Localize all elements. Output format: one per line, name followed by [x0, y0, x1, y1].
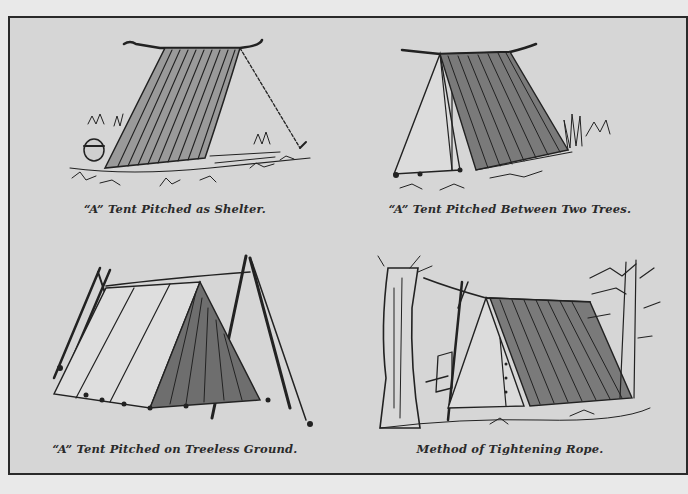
tent-treeless-ground-illustration	[10, 248, 340, 448]
tightening-rope-illustration	[340, 248, 680, 448]
caption-treeless: “A” Tent Pitched on Treeless Ground.	[10, 442, 340, 456]
panel-two-trees: “A” Tent Pitched Between Two Trees.	[340, 18, 680, 248]
tent-between-trees-illustration	[340, 18, 680, 218]
illustration-plate: “A” Tent Pitched as Shelter.	[8, 16, 688, 475]
caption-shelter: “A” Tent Pitched as Shelter.	[10, 202, 340, 216]
caption-tightening: Method of Tightening Rope.	[340, 442, 680, 456]
panel-shelter: “A” Tent Pitched as Shelter.	[10, 18, 340, 248]
tent-shelter-illustration	[10, 18, 340, 218]
panel-tightening: Method of Tightening Rope.	[340, 248, 680, 477]
panel-treeless: “A” Tent Pitched on Treeless Ground.	[10, 248, 340, 477]
caption-two-trees: “A” Tent Pitched Between Two Trees.	[340, 202, 680, 216]
